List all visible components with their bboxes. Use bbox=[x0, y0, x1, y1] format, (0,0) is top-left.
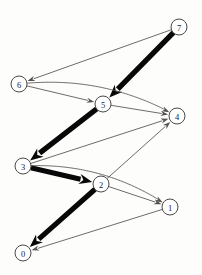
edge-2-to-4 bbox=[107, 122, 170, 179]
node-label-1: 1 bbox=[168, 203, 172, 213]
node-label-5: 5 bbox=[101, 100, 105, 110]
node-label-3: 3 bbox=[21, 162, 25, 172]
node-label-2: 2 bbox=[99, 180, 103, 190]
node-label-6: 6 bbox=[17, 80, 21, 90]
graph-node-4[interactable]: 4 bbox=[169, 108, 185, 124]
edge-7-to-5 bbox=[109, 33, 173, 98]
graph-node-7[interactable]: 7 bbox=[171, 19, 187, 35]
edge-layer bbox=[27, 30, 174, 251]
node-label-0: 0 bbox=[21, 249, 25, 259]
edge-6-to-5 bbox=[27, 86, 94, 103]
graph-canvas: 01234567 bbox=[0, 0, 202, 275]
graph-node-2[interactable]: 2 bbox=[93, 176, 109, 192]
graph-diagram: 01234567 bbox=[0, 0, 202, 275]
graph-node-5[interactable]: 5 bbox=[95, 96, 111, 112]
edge-2-to-1 bbox=[109, 187, 162, 205]
graph-node-0[interactable]: 0 bbox=[15, 245, 31, 261]
node-label-7: 7 bbox=[177, 23, 181, 33]
graph-node-1[interactable]: 1 bbox=[162, 199, 178, 215]
edge-2-to-0 bbox=[30, 189, 95, 247]
graph-node-3[interactable]: 3 bbox=[15, 158, 31, 174]
graph-node-6[interactable]: 6 bbox=[11, 76, 27, 92]
